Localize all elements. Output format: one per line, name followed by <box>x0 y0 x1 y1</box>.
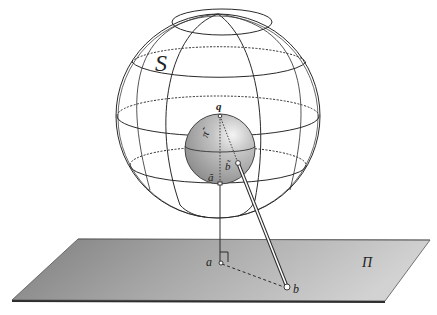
diagram-stage: S Π q a b ã b̃ π̃ <box>0 0 437 315</box>
point-inner-a-marker <box>218 182 222 185</box>
point-a-marker <box>219 261 223 265</box>
point-q-marker <box>218 114 222 118</box>
label-sphere-s: S <box>155 50 167 76</box>
diagram-svg: S Π q a b ã b̃ π̃ <box>0 0 437 315</box>
label-b: b <box>293 282 299 296</box>
plane-pi <box>12 239 430 302</box>
label-a: a <box>206 255 212 269</box>
point-inner-b-marker <box>236 161 241 166</box>
label-inner-a: ã <box>208 171 214 183</box>
point-b-marker <box>284 284 290 290</box>
label-plane-pi: Π <box>361 255 373 270</box>
label-inner-b: b̃ <box>225 160 231 172</box>
outer-sphere <box>116 9 320 218</box>
label-q: q <box>216 100 222 112</box>
